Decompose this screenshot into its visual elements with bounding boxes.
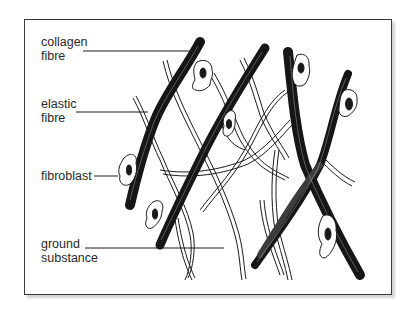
label-fibroblast: fibroblast: [41, 169, 92, 183]
fibroblast-cell: [339, 90, 357, 117]
label-line: fibre: [41, 111, 76, 125]
label-line: substance: [41, 251, 98, 265]
label-line: collagen: [41, 35, 88, 49]
label-elastic-fibre: elastic fibre: [41, 97, 76, 125]
fibroblast-cell: [146, 201, 163, 229]
fibroblast-cell: [193, 60, 213, 90]
label-ground-substance: ground substance: [41, 237, 98, 265]
label-line: ground: [41, 237, 98, 251]
fibroblast-cell: [292, 54, 309, 86]
label-line: fibroblast: [41, 169, 92, 183]
fibroblast-cell: [318, 215, 336, 258]
label-collagen-fibre: collagen fibre: [41, 35, 88, 63]
label-line: elastic: [41, 97, 76, 111]
label-line: fibre: [41, 49, 88, 63]
